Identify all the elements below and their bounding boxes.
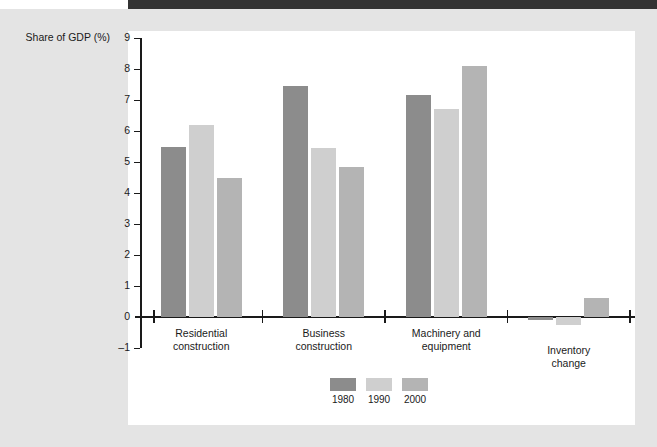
chart-legend: 198019902000 (330, 378, 428, 405)
x-axis-tick-mark (507, 310, 509, 323)
legend-item-1990: 1990 (366, 378, 392, 405)
y-axis-tick-mark (134, 255, 140, 257)
y-axis-tick-mark (134, 224, 140, 226)
y-axis-tick-label: 0 (104, 311, 130, 322)
y-axis-tick-mark (134, 286, 140, 288)
y-axis-title: Share of GDP (%) (12, 31, 110, 43)
category-label: Inventory change (508, 344, 631, 370)
y-axis-tick-label: 8 (104, 63, 130, 74)
legend-swatch (402, 378, 428, 391)
y-axis-tick-label: 2 (104, 249, 130, 260)
y-axis-tick-label: 7 (104, 94, 130, 105)
bar (161, 147, 186, 318)
category-label: Business construction (263, 327, 386, 353)
y-axis-tick-mark (134, 100, 140, 102)
category-label: Machinery and equipment (385, 327, 508, 353)
legend-label: 1990 (368, 394, 390, 405)
bar (406, 95, 431, 317)
legend-label: 2000 (404, 394, 426, 405)
y-axis-tick-mark (134, 69, 140, 71)
y-axis-tick-mark (134, 38, 140, 40)
y-axis-tick-label: 4 (104, 187, 130, 198)
y-axis-tick-label: 1 (104, 280, 130, 291)
legend-label: 1980 (332, 394, 354, 405)
bar (339, 167, 364, 317)
y-axis-tick-mark (134, 162, 140, 164)
bar (311, 148, 336, 317)
y-axis-tick-mark (134, 131, 140, 133)
y-axis-tick-label: 3 (104, 218, 130, 229)
x-axis-tick-mark (629, 310, 631, 323)
category-label: Residential construction (140, 327, 263, 353)
x-axis-tick-mark (153, 310, 155, 323)
chart-page: Share of GDP (%) 9876543210–1 Residentia… (0, 0, 657, 447)
legend-item-2000: 2000 (402, 378, 428, 405)
x-axis-tick-mark (262, 310, 264, 323)
bar (434, 109, 459, 317)
bar (462, 66, 487, 317)
bar (528, 317, 553, 320)
bar (189, 125, 214, 317)
legend-swatch (330, 378, 356, 391)
page-header-bar (128, 0, 657, 9)
y-axis-line (140, 38, 142, 348)
y-axis-tick-label: 5 (104, 156, 130, 167)
y-axis-tick-label: 9 (104, 32, 130, 43)
y-axis-tick-label: 6 (104, 125, 130, 136)
bar (217, 178, 242, 318)
y-axis-tick-label: –1 (104, 342, 130, 353)
bar (556, 317, 581, 325)
legend-swatch (366, 378, 392, 391)
x-axis-tick-mark (384, 310, 386, 323)
page-top-white-strip (0, 0, 128, 9)
bar (584, 298, 609, 317)
bar (283, 86, 308, 317)
legend-item-1980: 1980 (330, 378, 356, 405)
y-axis-tick-mark (134, 193, 140, 195)
